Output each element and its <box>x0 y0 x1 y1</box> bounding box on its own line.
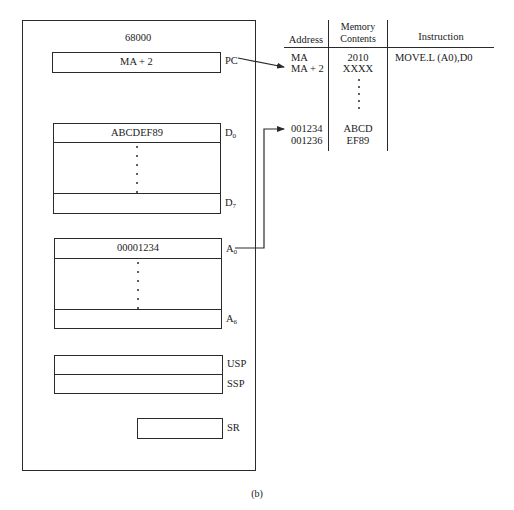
figure-caption: (b) <box>240 488 274 500</box>
arrows-layer <box>0 0 514 510</box>
pc-to-memory-arrow <box>238 58 284 67</box>
a0-to-memory-arrow <box>235 129 284 248</box>
